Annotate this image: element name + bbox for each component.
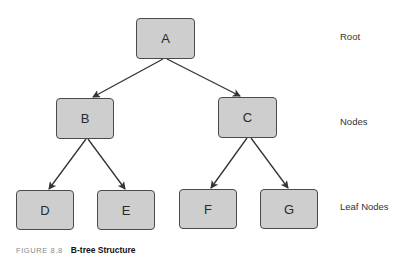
node-f: F	[179, 189, 237, 229]
node-g: G	[260, 189, 318, 229]
level-label-root: Root	[340, 31, 360, 43]
b-tree-diagram: A B C D E F G Root Nodes Leaf Nodes FIGU…	[0, 0, 407, 257]
node-label: A	[161, 31, 170, 46]
figure-caption: FIGURE 8.8B-tree Structure	[16, 239, 136, 257]
edge-c-f	[211, 138, 247, 188]
edge-a-c	[167, 59, 240, 96]
node-c: C	[218, 97, 277, 138]
figure-title: B-tree Structure	[71, 245, 136, 255]
edge-a-b	[93, 59, 163, 97]
node-label: F	[204, 202, 212, 217]
node-label: C	[243, 110, 252, 125]
level-label-nodes: Nodes	[340, 116, 367, 128]
edge-c-g	[251, 138, 288, 188]
node-e: E	[97, 190, 155, 230]
edge-b-e	[88, 139, 125, 189]
edge-b-d	[49, 139, 86, 189]
node-label: D	[40, 203, 49, 218]
node-b: B	[56, 98, 114, 139]
node-d: D	[16, 190, 74, 230]
node-label: B	[81, 111, 90, 126]
figure-number: FIGURE 8.8	[16, 246, 63, 255]
node-a: A	[136, 18, 195, 59]
node-label: G	[284, 202, 294, 217]
node-label: E	[122, 203, 131, 218]
level-label-leaf-nodes: Leaf Nodes	[340, 201, 389, 213]
